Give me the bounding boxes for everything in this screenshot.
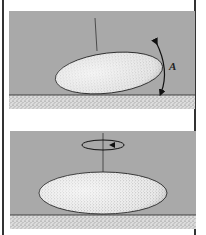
disk-body-flat — [39, 172, 167, 214]
arrow-label-A: A — [168, 60, 176, 72]
panel-spin — [10, 131, 196, 229]
ground-surface — [9, 95, 195, 109]
ground-surface — [10, 215, 196, 229]
diagram-canvas: A — [0, 0, 206, 235]
panel-tilt: A — [9, 11, 195, 109]
